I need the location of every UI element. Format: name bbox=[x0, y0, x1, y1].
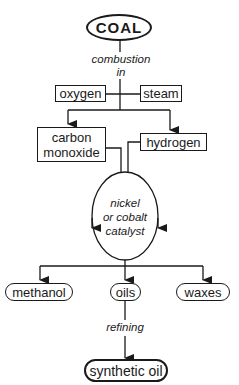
coal-label: COAL bbox=[96, 19, 143, 36]
steam-node: steam bbox=[140, 85, 182, 102]
synthetic-oil-node: synthetic oil bbox=[84, 359, 168, 382]
catalyst-label-line1: nickel bbox=[95, 196, 155, 210]
combustion-label-line2: in bbox=[84, 66, 158, 79]
carbon-monoxide-node: carbon monoxide bbox=[37, 127, 106, 162]
methanol-node: methanol bbox=[5, 283, 73, 301]
hydrogen-label: hydrogen bbox=[146, 135, 200, 150]
oxygen-node: oxygen bbox=[55, 85, 106, 102]
refining-label: refining bbox=[100, 321, 150, 334]
oils-label: oils bbox=[116, 285, 136, 300]
combustion-label: combustion in bbox=[84, 53, 158, 79]
refining-label-text: refining bbox=[106, 321, 144, 333]
oils-node: oils bbox=[110, 283, 141, 301]
coal-node: COAL bbox=[86, 14, 152, 41]
hydrogen-node: hydrogen bbox=[140, 133, 207, 151]
waxes-node: waxes bbox=[176, 283, 230, 301]
catalyst-label-line3: catalyst bbox=[95, 224, 155, 238]
waxes-label: waxes bbox=[185, 285, 222, 300]
methanol-label: methanol bbox=[12, 285, 65, 300]
carbon-monoxide-label-line2: monoxide bbox=[43, 145, 99, 160]
combustion-label-line1: combustion bbox=[84, 53, 158, 66]
catalyst-label: nickel or cobalt catalyst bbox=[95, 196, 155, 238]
catalyst-label-line2: or cobalt bbox=[95, 210, 155, 224]
synthetic-oil-label: synthetic oil bbox=[89, 363, 162, 379]
oxygen-label: oxygen bbox=[60, 86, 102, 101]
steam-label: steam bbox=[143, 86, 178, 101]
carbon-monoxide-label-line1: carbon bbox=[52, 130, 92, 145]
